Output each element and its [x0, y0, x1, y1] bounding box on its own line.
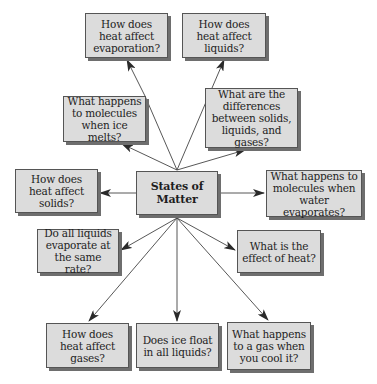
edge-center-samerate: [121, 218, 177, 250]
node-label: Do all liquids evaporate at the same rat…: [41, 227, 115, 275]
node-label: What happens to a gas when you cool it?: [231, 328, 307, 364]
node-label: What is the effect of heat?: [242, 240, 316, 264]
edge-icemelts-evaporation: [127, 60, 145, 96]
node-ice-float: Does ice float in all liquids?: [136, 323, 219, 368]
node-label: How does heat affect solids?: [19, 173, 94, 209]
edge-center-icemelts: [122, 144, 177, 170]
node-heat-solids: How does heat affect solids?: [15, 169, 98, 213]
node-heat-gases: How does heat affect gases?: [46, 323, 129, 368]
node-liquids-same-rate: Do all liquids evaporate at the same rat…: [37, 229, 119, 273]
node-molecules-water-evaporates: What happens to molecules when water eva…: [266, 170, 362, 217]
node-label: What are the differences between solids,…: [209, 88, 294, 148]
node-center-states-of-matter: States of Matter: [136, 171, 218, 215]
edge-center-differences: [177, 150, 245, 170]
node-effect-of-heat: What is the effect of heat?: [237, 230, 321, 273]
node-heat-evaporation: How does heat affect evaporation?: [85, 13, 168, 58]
node-molecules-ice-melts: What happens to molecules when ice melts…: [63, 96, 146, 142]
node-label: How does heat affect evaporation?: [89, 18, 164, 54]
node-gas-cool: What happens to a gas when you cool it?: [227, 322, 311, 370]
edge-differences-liquids: [212, 60, 224, 88]
node-label: What happens to molecules when water eva…: [270, 170, 358, 218]
concept-map: How does heat affect evaporation? How do…: [0, 0, 377, 384]
node-label: What happens to molecules when ice melts…: [67, 95, 142, 143]
node-label: How does heat affect gases?: [50, 328, 125, 364]
node-differences-states: What are the differences between solids,…: [205, 88, 298, 148]
edge-center-effectheat: [177, 218, 235, 250]
node-heat-liquids: How does heat affect liquids?: [182, 13, 266, 58]
node-label: Does ice float in all liquids?: [140, 334, 215, 358]
center-label: States of Matter: [147, 180, 207, 206]
node-label: How does heat affect liquids?: [186, 18, 262, 54]
